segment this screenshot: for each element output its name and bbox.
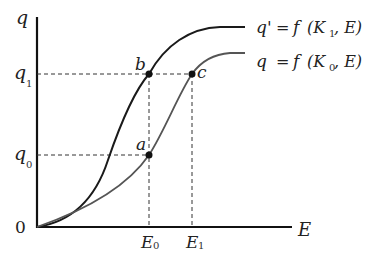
- point-a: [146, 152, 153, 159]
- point-b: [146, 71, 153, 78]
- svg-text:(K: (K: [307, 52, 326, 71]
- q0-label: q: [14, 142, 26, 164]
- point-c-label: c: [197, 62, 207, 82]
- point-c: [189, 71, 196, 78]
- svg-text:f: f: [291, 17, 302, 37]
- x-axis-label: E: [297, 219, 311, 240]
- q0-subscript: 0: [26, 159, 32, 170]
- svg-text:q: q: [256, 51, 267, 71]
- q1-label: q: [14, 61, 26, 83]
- q1-subscript: 1: [26, 78, 32, 89]
- svg-text:=: =: [276, 18, 289, 37]
- e1-label: E: [185, 232, 199, 252]
- svg-text:=: =: [276, 52, 289, 71]
- y-axis-label: q: [16, 6, 28, 28]
- origin-label: 0: [15, 217, 26, 237]
- svg-text:(K: (K: [307, 18, 326, 37]
- svg-text:q': q': [256, 17, 272, 37]
- e0-label: E: [140, 232, 154, 252]
- point-a-label: a: [136, 134, 146, 154]
- svg-text:, E): , E): [334, 18, 362, 37]
- e1-subscript: 1: [198, 240, 204, 251]
- svg-text:f: f: [291, 51, 302, 71]
- e0-subscript: 0: [153, 240, 159, 251]
- curve-k1-equation: q' = f (K 1 , E): [256, 17, 362, 39]
- curve-k0-equation: q = f (K 0 , E): [256, 51, 362, 73]
- production-function-diagram: b c a q E 0 q 1 q 0 E 0 E 1 q' = f (K 1 …: [0, 0, 378, 257]
- svg-text:, E): , E): [334, 52, 362, 71]
- point-b-label: b: [135, 54, 146, 74]
